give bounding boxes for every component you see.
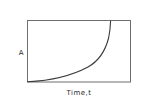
figure-root: A Time,t xyxy=(0,0,144,107)
y-axis-label: A xyxy=(17,49,26,57)
x-axis-label: Time,t xyxy=(44,89,114,97)
